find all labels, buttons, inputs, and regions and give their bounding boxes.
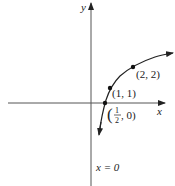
point-label-1-1: (1, 1) [112, 87, 136, 100]
y-axis-label: y [80, 1, 86, 13]
open-paren: ( [107, 105, 113, 124]
fraction-numerator: 1 [115, 106, 119, 115]
fraction-denominator: 2 [115, 116, 119, 125]
point-label-2-2: (2, 2) [136, 68, 160, 81]
point-2-2 [131, 65, 135, 69]
x-axis-label: x [156, 105, 162, 117]
point-label-half-0: ( 1 2 , 0) [107, 105, 136, 125]
asymptote-label: x = 0 [95, 161, 120, 173]
graph-canvas: y x (2, 2) (1, 1) ( 1 2 , 0) x = 0 [0, 0, 175, 186]
label-rest: , 0) [121, 109, 136, 122]
